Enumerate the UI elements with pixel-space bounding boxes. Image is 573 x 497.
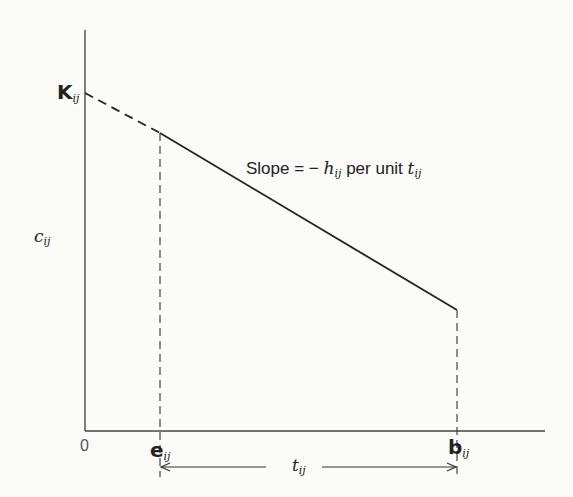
- y-intercept-label: Kij: [57, 80, 79, 105]
- y-intercept-main: K: [57, 80, 73, 104]
- interval-label: tij: [292, 455, 306, 477]
- slope-h: h: [324, 158, 335, 178]
- dashed-extension-line: [85, 93, 160, 133]
- cost-diagram: [0, 0, 573, 497]
- y-axis-label-main: c: [34, 226, 44, 246]
- origin-label: 0: [80, 437, 89, 455]
- interval-main: t: [292, 455, 299, 475]
- x-start-main: e: [150, 438, 164, 462]
- interval-sub: ij: [299, 464, 306, 477]
- x-start-sub: ij: [164, 450, 171, 463]
- x-end-sub: ij: [462, 447, 469, 460]
- slope-annotation: Slope = − hij per unit tij: [246, 158, 421, 180]
- slope-t-sub: ij: [414, 167, 421, 180]
- x-end-label: bij: [448, 435, 469, 460]
- x-start-label: eij: [150, 438, 171, 463]
- y-axis-label: cij: [34, 226, 50, 248]
- slope-prefix: Slope = −: [246, 159, 324, 178]
- x-end-main: b: [448, 435, 462, 459]
- y-intercept-sub: ij: [73, 92, 80, 105]
- slope-middle: per unit: [341, 159, 407, 178]
- y-axis-label-sub: ij: [44, 235, 51, 248]
